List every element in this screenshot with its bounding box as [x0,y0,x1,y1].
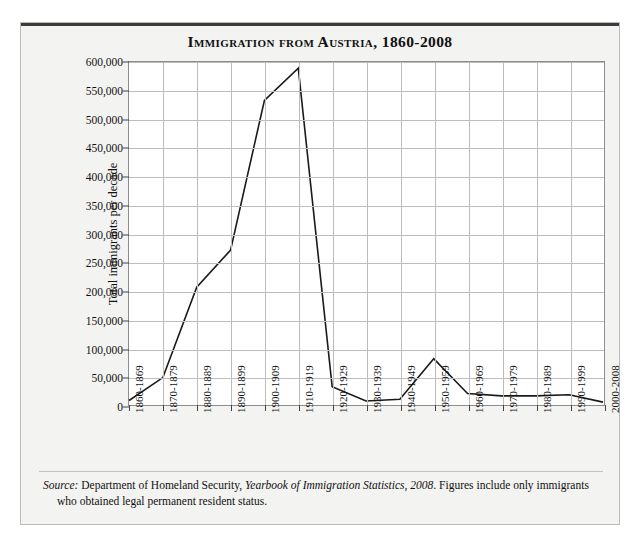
source-note: Source: Department of Homeland Security,… [43,477,599,510]
y-axis-tick [123,205,129,206]
plot-area: 050,000100,000150,000200,000250,000300,0… [128,61,605,406]
y-axis-tick-label: 50,000 [91,372,123,384]
x-axis-tick-label: 1900-1909 [269,365,281,413]
frame-top-rule [21,23,619,26]
chart-container: Total immigrants per decade 050,000100,0… [88,39,605,428]
x-axis-tick [503,405,504,411]
x-axis-tick-label: 1960-1969 [473,365,485,413]
x-axis-tick [537,405,538,411]
y-axis-tick-label: 500,000 [86,114,123,126]
x-axis-tick [129,405,130,411]
x-axis-tick [231,405,232,411]
y-axis-tick [123,119,129,120]
x-axis-tick-label: 1980-1989 [541,365,553,413]
gridline-vertical [469,62,470,405]
y-axis-tick [123,62,129,63]
y-axis-tick-label: 150,000 [86,315,123,327]
x-axis-tick [571,405,572,411]
gridline-vertical [367,62,368,405]
x-axis-tick [299,405,300,411]
x-axis-tick-label: 1870-1879 [167,365,179,413]
x-axis-tick-label: 1890-1899 [235,365,247,413]
gridline-vertical [197,62,198,405]
y-axis-tick-label: 0 [117,401,123,413]
y-axis-tick-label: 550,000 [86,85,123,97]
figure-frame: Immigration from Austria, 1860-2008 Tota… [20,22,620,525]
y-axis-tick [123,263,129,264]
gridline-vertical [571,62,572,405]
x-axis-tick [367,405,368,411]
x-axis-tick [265,405,266,411]
gridline-vertical [163,62,164,405]
y-axis-tick [123,90,129,91]
y-axis-tick-label: 450,000 [86,142,123,154]
x-axis-tick-label: 1930-1939 [371,365,383,413]
gridline-vertical [231,62,232,405]
y-axis-tick [123,349,129,350]
gridline-vertical [333,62,334,405]
source-publication: Yearbook of Immigration Statistics, 2008 [245,479,433,491]
x-axis-tick-label: 1860-1869 [133,365,145,413]
y-axis-tick [123,292,129,293]
x-axis-tick [605,405,606,411]
source-label: Source: [43,479,78,491]
gridline-vertical [503,62,504,405]
gridline-vertical [299,62,300,405]
x-axis-tick-label: 1990-1999 [575,365,587,413]
y-axis-tick [123,378,129,379]
y-axis-tick-label: 250,000 [86,257,123,269]
y-axis-tick-label: 200,000 [86,286,123,298]
figure-page: Immigration from Austria, 1860-2008 Tota… [0,0,641,545]
source-divider [39,471,603,472]
y-axis-tick [123,177,129,178]
gridline-vertical [435,62,436,405]
y-axis-tick-label: 600,000 [86,56,123,68]
y-axis-tick-label: 350,000 [86,200,123,212]
y-axis-tick-label: 300,000 [86,229,123,241]
gridline-vertical [401,62,402,405]
x-axis-tick [333,405,334,411]
x-axis-tick [435,405,436,411]
y-axis-tick [123,148,129,149]
y-axis-tick [123,320,129,321]
x-axis-tick-label: 1910-1919 [303,365,315,413]
y-axis-tick [123,234,129,235]
gridline-vertical [537,62,538,405]
x-axis-tick [469,405,470,411]
x-axis-tick-label: 1940-1949 [405,365,417,413]
y-axis-tick-label: 400,000 [86,171,123,183]
x-axis-tick [197,405,198,411]
source-agency: Department of Homeland Security, [78,479,245,491]
x-axis-tick [401,405,402,411]
x-axis-tick-label: 1920-1929 [337,365,349,413]
x-axis-tick-label: 2000-2008 [609,365,621,413]
x-axis-tick-label: 1970-1979 [507,365,519,413]
y-axis-tick-label: 100,000 [86,344,123,356]
x-axis-tick-label: 1880-1889 [201,365,213,413]
x-axis-tick-label: 1950-1959 [439,365,451,413]
x-axis-tick [163,405,164,411]
gridline-vertical [265,62,266,405]
